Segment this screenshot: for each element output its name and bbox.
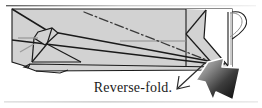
top-border-rule xyxy=(6,5,256,6)
figure-caption: Reverse-fold. xyxy=(0,79,262,96)
rolled-edge-hook xyxy=(228,12,246,65)
caption-text: Reverse-fold. xyxy=(90,79,172,96)
origami-figure: Reverse-fold. xyxy=(0,0,262,108)
bottom-border-rule xyxy=(4,101,258,102)
